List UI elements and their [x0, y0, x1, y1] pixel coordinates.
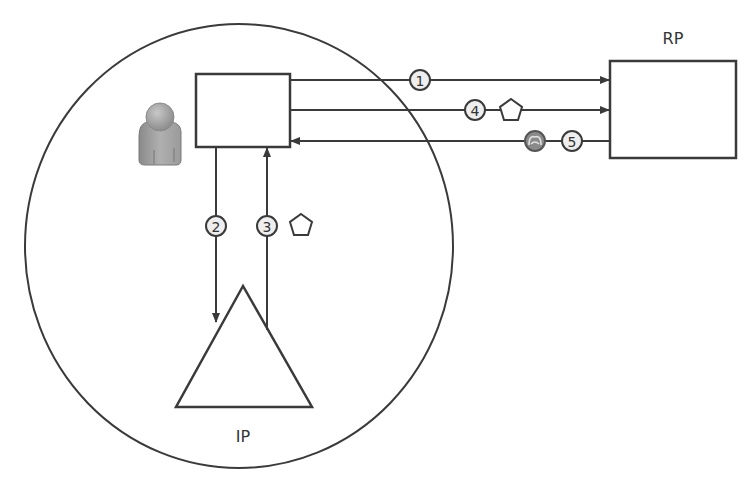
- step-badge-3: 3: [257, 216, 277, 236]
- user-icon: [139, 103, 181, 165]
- step-badge-1: 1: [410, 70, 430, 90]
- pentagon-icon: [290, 214, 312, 235]
- svg-text:5: 5: [568, 134, 577, 150]
- ip-label: IP: [236, 427, 251, 446]
- svg-text:3: 3: [263, 219, 272, 235]
- step-badge-2: 2: [206, 216, 226, 236]
- step-badge-4: 4: [465, 100, 485, 120]
- svg-text:4: 4: [471, 103, 480, 119]
- pentagon-icon: [500, 99, 522, 120]
- svg-text:2: 2: [212, 219, 221, 235]
- client-box[interactable]: [196, 74, 290, 147]
- svg-text:1: 1: [416, 73, 425, 89]
- ip-triangle[interactable]: [176, 286, 312, 407]
- federation-diagram: RP IP 1 4 5 2 3: [0, 0, 755, 486]
- rp-label: RP: [663, 29, 684, 48]
- rp-box[interactable]: [610, 61, 736, 158]
- session-token-icon: [525, 131, 545, 151]
- step-badge-5: 5: [562, 131, 582, 151]
